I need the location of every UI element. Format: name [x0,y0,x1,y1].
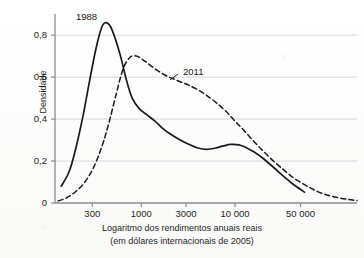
x-axis-title-line2: (em dólares internacionais de 2005) [0,235,364,248]
x-tick-label-0: 300 [84,208,100,219]
series-label-2011: 2011 [183,66,203,77]
plot-canvas: 00,20,40,60,83001000300010 00050 000 [0,0,364,258]
y-axis-title: Densidade [38,57,48,127]
y-tick-label-1: 0,2 [34,155,47,166]
x-tick-label-1: 1000 [131,208,152,219]
x-axis-title-line1: Logaritmo dos rendimentos anuais reais [0,222,364,235]
x-tick-label-3: 10 000 [221,208,250,219]
density-chart-figure: 00,20,40,60,83001000300010 00050 000 Den… [0,0,364,258]
x-tick-label-4: 50 000 [286,208,315,219]
x-tick-label-2: 3000 [175,208,196,219]
y-tick-label-0: 0 [42,197,47,208]
y-tick-label-4: 0,8 [34,29,47,40]
series-label-1988: 1988 [76,11,97,22]
x-axis-title: Logaritmo dos rendimentos anuais reais (… [0,222,364,248]
series-curve-1988 [61,23,304,193]
